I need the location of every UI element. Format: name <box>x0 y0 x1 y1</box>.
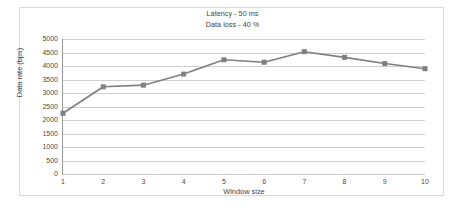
data-point-marker <box>423 66 428 71</box>
data-point-marker <box>141 83 146 88</box>
data-point-marker <box>61 111 66 116</box>
y-tick-label: 4000 <box>18 62 58 70</box>
data-point-marker <box>342 55 347 60</box>
y-tick-label: 5000 <box>18 35 58 43</box>
data-point-marker <box>262 60 267 65</box>
data-point-marker <box>302 49 307 54</box>
y-tick-label: 3000 <box>18 89 58 97</box>
x-tick-label: 9 <box>373 177 397 186</box>
y-tick-label: 500 <box>18 157 58 165</box>
data-point-marker <box>181 72 186 77</box>
plot-area <box>63 39 425 174</box>
x-tick-label: 1 <box>51 177 75 186</box>
y-tick-label: 2000 <box>18 116 58 124</box>
y-tick-label: 4500 <box>18 49 58 57</box>
y-tick-label: 1000 <box>18 143 58 151</box>
data-point-marker <box>101 84 106 89</box>
chart-figure: Latency - 50 ms Data loss - 40 % Data ra… <box>0 0 465 210</box>
x-axis-title: Window size <box>63 187 425 196</box>
data-point-marker <box>221 57 226 62</box>
y-tick-label: 3500 <box>18 76 58 84</box>
x-tick-label: 2 <box>91 177 115 186</box>
x-tick-label: 6 <box>252 177 276 186</box>
x-tick-label: 7 <box>292 177 316 186</box>
x-tick-label: 10 <box>413 177 437 186</box>
gridline <box>63 174 425 175</box>
x-tick-label: 5 <box>212 177 236 186</box>
data-series-line <box>63 39 425 174</box>
y-tick-label: 2500 <box>18 103 58 111</box>
y-tick-label: 1500 <box>18 130 58 138</box>
x-tick-label: 8 <box>333 177 357 186</box>
x-tick-label: 3 <box>131 177 155 186</box>
data-point-marker <box>382 61 387 66</box>
y-axis-tick-labels: 0500100015002000250030003500400045005000 <box>16 39 58 174</box>
x-tick-label: 4 <box>172 177 196 186</box>
